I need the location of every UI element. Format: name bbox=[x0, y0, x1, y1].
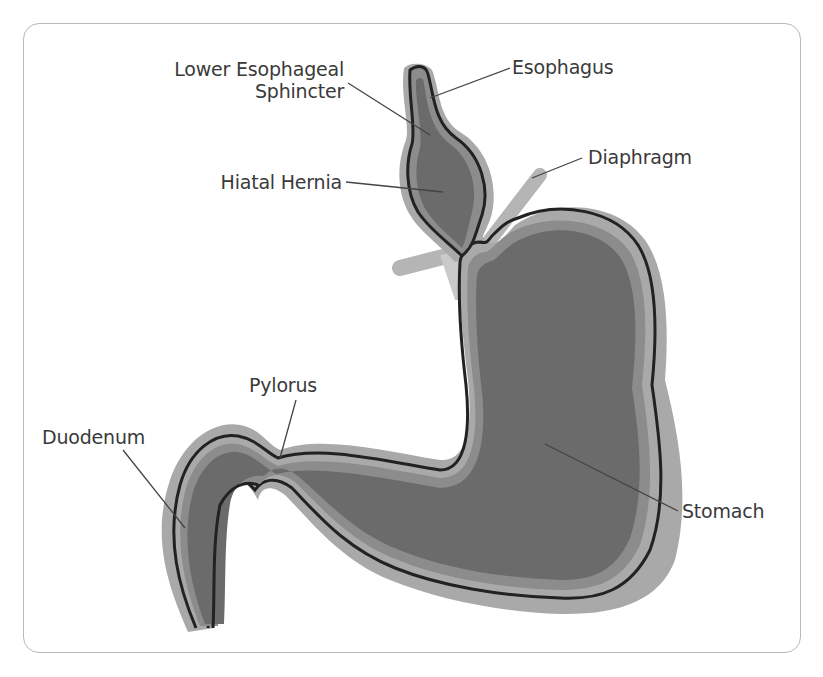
stomach-anatomy-illustration bbox=[0, 0, 823, 677]
label-les-line2: Sphincter bbox=[138, 80, 344, 102]
esophagus-hernia-shape bbox=[408, 67, 485, 256]
label-lower-esophageal-sphincter: Lower Esophageal Sphincter bbox=[138, 58, 344, 102]
label-duodenum: Duodenum bbox=[42, 426, 145, 448]
label-pylorus: Pylorus bbox=[249, 374, 317, 396]
label-stomach: Stomach bbox=[682, 500, 764, 522]
leader-diaphragm bbox=[532, 158, 582, 178]
label-hiatal-hernia: Hiatal Hernia bbox=[160, 171, 342, 193]
label-les-line1: Lower Esophageal bbox=[138, 58, 344, 80]
label-diaphragm: Diaphragm bbox=[588, 146, 692, 168]
label-esophagus: Esophagus bbox=[512, 56, 613, 78]
leader-esophagus bbox=[430, 68, 510, 98]
